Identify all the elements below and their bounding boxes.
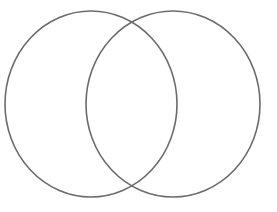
venn-diagram-svg: Line drawing of two overlapping circles …: [0, 0, 277, 212]
figure-canvas: Line drawing of two overlapping circles …: [0, 0, 277, 212]
